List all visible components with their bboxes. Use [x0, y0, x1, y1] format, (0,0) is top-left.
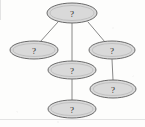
edge-right-to-lower-right	[112, 59, 113, 80]
node-lower-right-label: ?	[111, 85, 115, 95]
node-bottom-label: ?	[70, 105, 74, 115]
diagram-canvas: ? ? ? ? ? ?	[0, 0, 145, 127]
edge-top-to-left	[40, 22, 58, 42]
node-left-label: ?	[32, 46, 36, 56]
edge-top-to-right	[88, 22, 105, 42]
node-middle-label: ?	[70, 66, 74, 76]
node-right-label: ?	[110, 46, 114, 56]
node-top-label: ?	[70, 9, 74, 19]
node-top[interactable]: ?	[47, 3, 97, 23]
node-lower-right[interactable]: ?	[90, 80, 136, 98]
node-graph-diagram: ? ? ? ? ? ?	[0, 0, 145, 127]
node-right[interactable]: ?	[89, 41, 135, 59]
node-left[interactable]: ?	[10, 41, 58, 59]
node-middle[interactable]: ?	[48, 61, 96, 79]
node-bottom[interactable]: ?	[48, 100, 96, 118]
